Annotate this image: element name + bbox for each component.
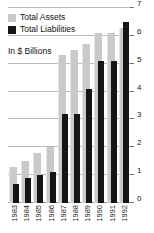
chart-legend: Total Assets Total Liabilities [8,12,75,36]
legend-label-liabilities: Total Liabilities [20,25,75,34]
bar-group-1989 [82,8,92,203]
x-tick-label-1991: 1991 [109,205,117,222]
x-tick-label-1988: 1988 [72,205,80,222]
y-tick-label-5: 5 [137,56,141,64]
x-tick-label-1992: 1992 [121,205,129,222]
y-tick-3 [130,118,134,119]
bar-group-1987 [58,8,68,203]
bar-group-1988 [70,8,80,203]
legend-item-total-assets: Total Assets [8,12,75,23]
y-tick-label-0: 0 [137,195,141,203]
y-tick-6 [130,35,134,36]
bar-group-1985 [33,8,43,203]
x-tick-label-1989: 1989 [84,205,92,222]
bar-liabilities-1988 [74,114,80,203]
plot-area [8,8,130,203]
units-note: In $ Billions [8,47,51,56]
bar-group-1992 [119,8,129,203]
bar-series-container [8,8,130,203]
x-tick-label-1983: 1983 [11,205,19,222]
x-tick-label-1987: 1987 [60,205,68,222]
y-tick-label-3: 3 [137,111,141,119]
y-tick-2 [130,146,134,147]
y-tick-5 [130,63,134,64]
bar-group-1990 [94,8,104,203]
x-tick-label-1986: 1986 [48,205,56,222]
legend-swatch-icon-assets [8,14,16,22]
legend-label-assets: Total Assets [20,13,65,22]
y-tick-label-1: 1 [137,167,141,175]
bar-group-1983 [9,8,19,203]
y-tick-label-6: 6 [137,28,141,36]
y-axis: 01234567 [130,8,154,203]
bar-liabilities-1990 [98,61,104,203]
y-tick-label-4: 4 [137,84,141,92]
bar-chart: 01234567 Total Assets Total Liabilities … [0,0,154,233]
x-tick-label-1985: 1985 [35,205,43,222]
bar-group-1986 [46,8,56,203]
bar-liabilities-1992 [123,22,129,203]
y-tick-7 [130,7,134,8]
x-tick-label-1984: 1984 [23,205,31,222]
x-tick-label-1990: 1990 [96,205,104,222]
y-tick-1 [130,174,134,175]
bar-group-1984 [21,8,31,203]
x-axis: 1983198419851986198719881989199019911992 [8,205,130,233]
bar-liabilities-1986 [50,172,56,203]
bar-liabilities-1983 [13,184,19,204]
y-tick-label-2: 2 [137,139,141,147]
y-tick-4 [130,91,134,92]
bar-liabilities-1985 [37,175,43,203]
bar-group-1991 [107,8,117,203]
legend-item-total-liabilities: Total Liabilities [8,24,75,35]
y-tick-0 [130,202,134,203]
bar-liabilities-1991 [111,61,117,203]
bar-liabilities-1989 [86,89,92,203]
y-tick-label-7: 7 [137,0,141,8]
bar-liabilities-1987 [62,114,68,203]
legend-swatch-icon-liabilities [8,26,16,34]
bar-liabilities-1984 [25,178,31,203]
